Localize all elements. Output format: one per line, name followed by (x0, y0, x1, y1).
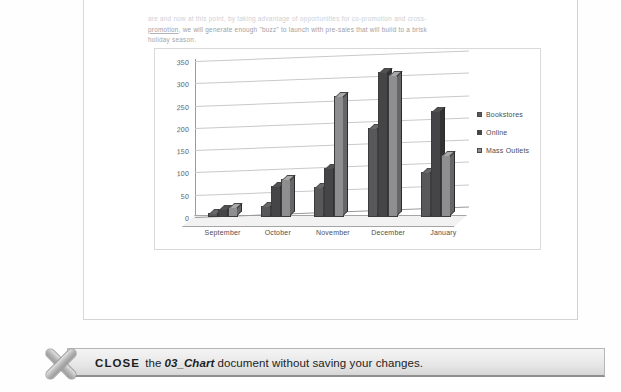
legend-label: Online (486, 129, 507, 136)
paragraph-underlined-word: promotion (148, 26, 179, 33)
legend-item[interactable]: Mass Outlets (477, 147, 529, 154)
x-axis-tick-label: November (307, 229, 359, 236)
y-axis-tick-label: 300 (177, 81, 189, 88)
x-axis-tick-label: October (252, 229, 304, 236)
legend-item[interactable]: Bookstores (477, 111, 529, 118)
bar[interactable] (228, 207, 238, 217)
bar-side-face (397, 71, 402, 216)
legend-label: Mass Outlets (486, 147, 529, 154)
legend-swatch (477, 148, 482, 153)
bar-side-face (450, 151, 455, 216)
chart-plot-area: 050100150200250300350 (195, 61, 463, 217)
chart-object[interactable]: 050100150200250300350 SeptemberOctoberNo… (154, 48, 541, 250)
bar[interactable] (324, 168, 334, 217)
bar-side-face (343, 92, 348, 216)
bar[interactable] (334, 96, 344, 217)
bar[interactable] (388, 75, 398, 217)
legend-swatch (477, 112, 482, 117)
bar[interactable] (368, 128, 378, 217)
y-axis-tick-label: 100 (177, 170, 189, 177)
x-axis-tick-label: September (197, 229, 249, 236)
bar[interactable] (271, 186, 281, 217)
bar[interactable] (421, 172, 431, 217)
bar-groups (196, 61, 463, 217)
bar-group (197, 61, 249, 217)
bar-group (410, 61, 462, 217)
document-page: are and now at this point, by taking adv… (83, 0, 578, 320)
screenshot-root: are and now at this point, by taking adv… (0, 0, 621, 392)
paragraph-line-2: promotion, we will generate enough "buzz… (148, 25, 522, 36)
instruction-keyword: CLOSE (95, 357, 140, 369)
y-axis-tick-label: 200 (177, 126, 189, 133)
x-axis-labels: SeptemberOctoberNovemberDecemberJanuary (195, 229, 471, 236)
x-axis-tick-label: December (362, 229, 414, 236)
bar-group (357, 61, 409, 217)
instruction-document-name: 03_Chart (164, 357, 214, 369)
bar[interactable] (208, 213, 218, 217)
bar[interactable] (431, 111, 441, 217)
bar[interactable] (314, 187, 324, 217)
y-axis-tick-label: 150 (177, 148, 189, 155)
x-axis-tick-label: January (417, 229, 469, 236)
paragraph-line-3: holiday season. (148, 35, 522, 46)
bar-group (250, 61, 302, 217)
bar[interactable] (281, 179, 291, 217)
y-axis-tick-label: 350 (177, 59, 189, 66)
bar-group (303, 61, 355, 217)
paragraph-line-1: are and now at this point, by taking adv… (148, 14, 522, 25)
y-axis-tick-label: 250 (177, 103, 189, 110)
bar[interactable] (218, 209, 228, 217)
legend-label: Bookstores (486, 111, 523, 118)
bar[interactable] (441, 155, 451, 217)
y-axis-tick-label: 50 (181, 192, 189, 199)
instruction-text-before: the (145, 357, 161, 369)
instruction-text: CLOSE the 03_Chart document without savi… (95, 347, 599, 378)
legend-item[interactable]: Online (477, 129, 529, 136)
legend-swatch (477, 130, 482, 135)
chart-legend: BookstoresOnlineMass Outlets (477, 111, 529, 165)
instruction-bar: CLOSE the 03_Chart document without savi… (37, 347, 605, 380)
y-axis-tick-label: 0 (185, 215, 189, 222)
bar-side-face (290, 175, 295, 216)
instruction-text-after: document without saving your changes. (217, 357, 423, 369)
x-mark-icon (37, 347, 85, 380)
bar[interactable] (261, 206, 271, 217)
bar[interactable] (378, 72, 388, 217)
document-paragraph: are and now at this point, by taking adv… (148, 14, 522, 46)
